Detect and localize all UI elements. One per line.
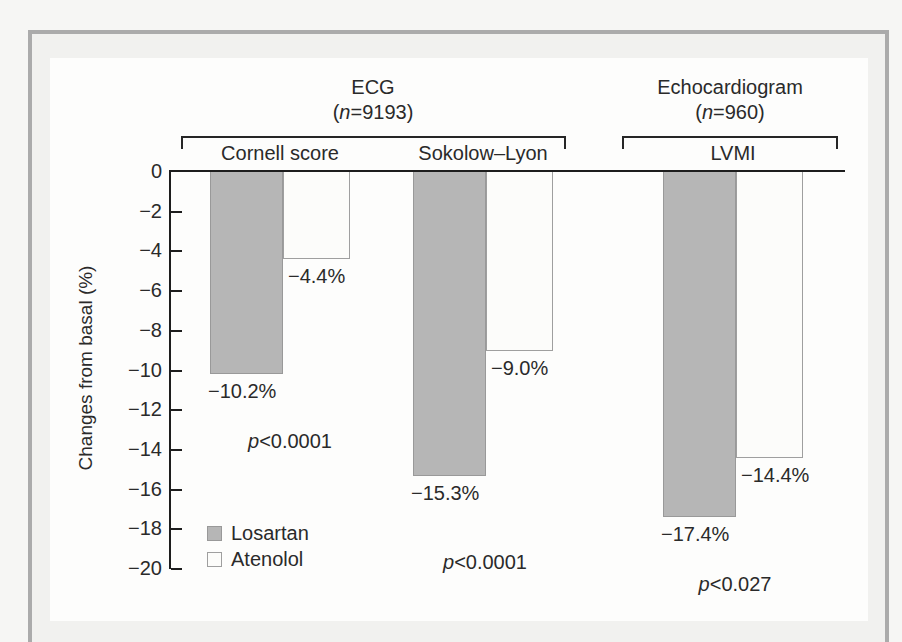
y-tick-label: −2 (102, 199, 162, 223)
group-label: Sokolow–Lyon (418, 142, 547, 165)
bar-value-label: −15.3% (411, 482, 479, 505)
bar-losartan (413, 172, 486, 476)
y-tick-label: −12 (102, 397, 162, 421)
p-value-label: p<0.0001 (443, 551, 527, 574)
y-tick (171, 568, 182, 570)
y-tick-label: −14 (102, 437, 162, 461)
legend-label-losartan: Losartan (231, 523, 309, 543)
y-tick (171, 330, 182, 332)
y-tick (171, 528, 182, 530)
scanned-figure-page: { "chart_data": { "type": "bar", "title"… (0, 0, 902, 642)
bar-value-label: −10.2% (208, 380, 276, 403)
legend-swatch-losartan (207, 526, 222, 541)
p-value-label: p<0.0001 (248, 430, 332, 453)
y-tick (171, 489, 182, 491)
section-n-label: (n=960) (695, 101, 765, 124)
y-tick-label: −6 (102, 278, 162, 302)
bar-value-label: −4.4% (288, 265, 345, 288)
section-title: ECG (351, 76, 394, 99)
p-value-label: p<0.027 (699, 573, 772, 596)
group-label: LVMI (710, 142, 755, 165)
y-tick-label: −8 (102, 318, 162, 342)
bar-atenolol (283, 172, 350, 259)
y-tick (171, 250, 182, 252)
y-tick (171, 370, 182, 372)
section-title: Echocardiogram (657, 76, 803, 99)
y-tick-label: 0 (102, 159, 162, 183)
y-tick-label: −18 (102, 516, 162, 540)
y-tick (171, 290, 182, 292)
bar-value-label: −17.4% (661, 523, 729, 546)
y-tick-label: −20 (102, 556, 162, 580)
y-tick (171, 409, 182, 411)
bar-losartan (663, 172, 736, 517)
y-tick-label: −4 (102, 238, 162, 262)
y-tick-label: −10 (102, 358, 162, 382)
bar-atenolol (736, 172, 803, 458)
bar-value-label: −9.0% (491, 357, 548, 380)
legend-label-atenolol: Atenolol (231, 549, 303, 569)
y-tick (171, 211, 182, 213)
group-label: Cornell score (221, 142, 339, 165)
section-n-label: (n=9193) (333, 101, 414, 124)
y-tick-label: −16 (102, 477, 162, 501)
bar-losartan (210, 172, 283, 374)
y-axis-title: Changes from basal (%) (75, 266, 97, 471)
legend-swatch-atenolol (207, 552, 222, 567)
y-tick (171, 449, 182, 451)
bar-value-label: −14.4% (741, 464, 809, 487)
bar-chart: Changes from basal (%) ECG(n=9193)Echoca… (0, 0, 902, 642)
bar-atenolol (486, 172, 553, 351)
